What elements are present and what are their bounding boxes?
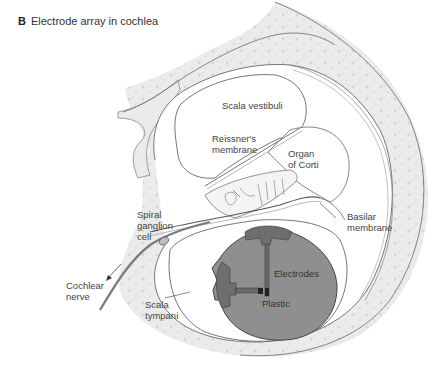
label-scala-vestibuli: Scala vestibuli: [222, 100, 283, 111]
label-scala-tympani: Scala tympani: [145, 299, 178, 321]
label-organ-of-corti: Organ of Corti: [288, 148, 319, 170]
label-reissners-membrane: Reissner's membrane: [212, 133, 257, 155]
label-cochlear-nerve: Cochlear nerve: [66, 280, 104, 302]
label-spiral-ganglion-cell: Spiral ganglion cell: [137, 209, 173, 242]
label-plastic: Plastic: [262, 298, 290, 309]
cochlea-diagram: [0, 0, 436, 365]
label-basilar-membrane: Basilar membrane: [347, 211, 392, 233]
label-electrodes: Electrodes: [274, 268, 319, 279]
